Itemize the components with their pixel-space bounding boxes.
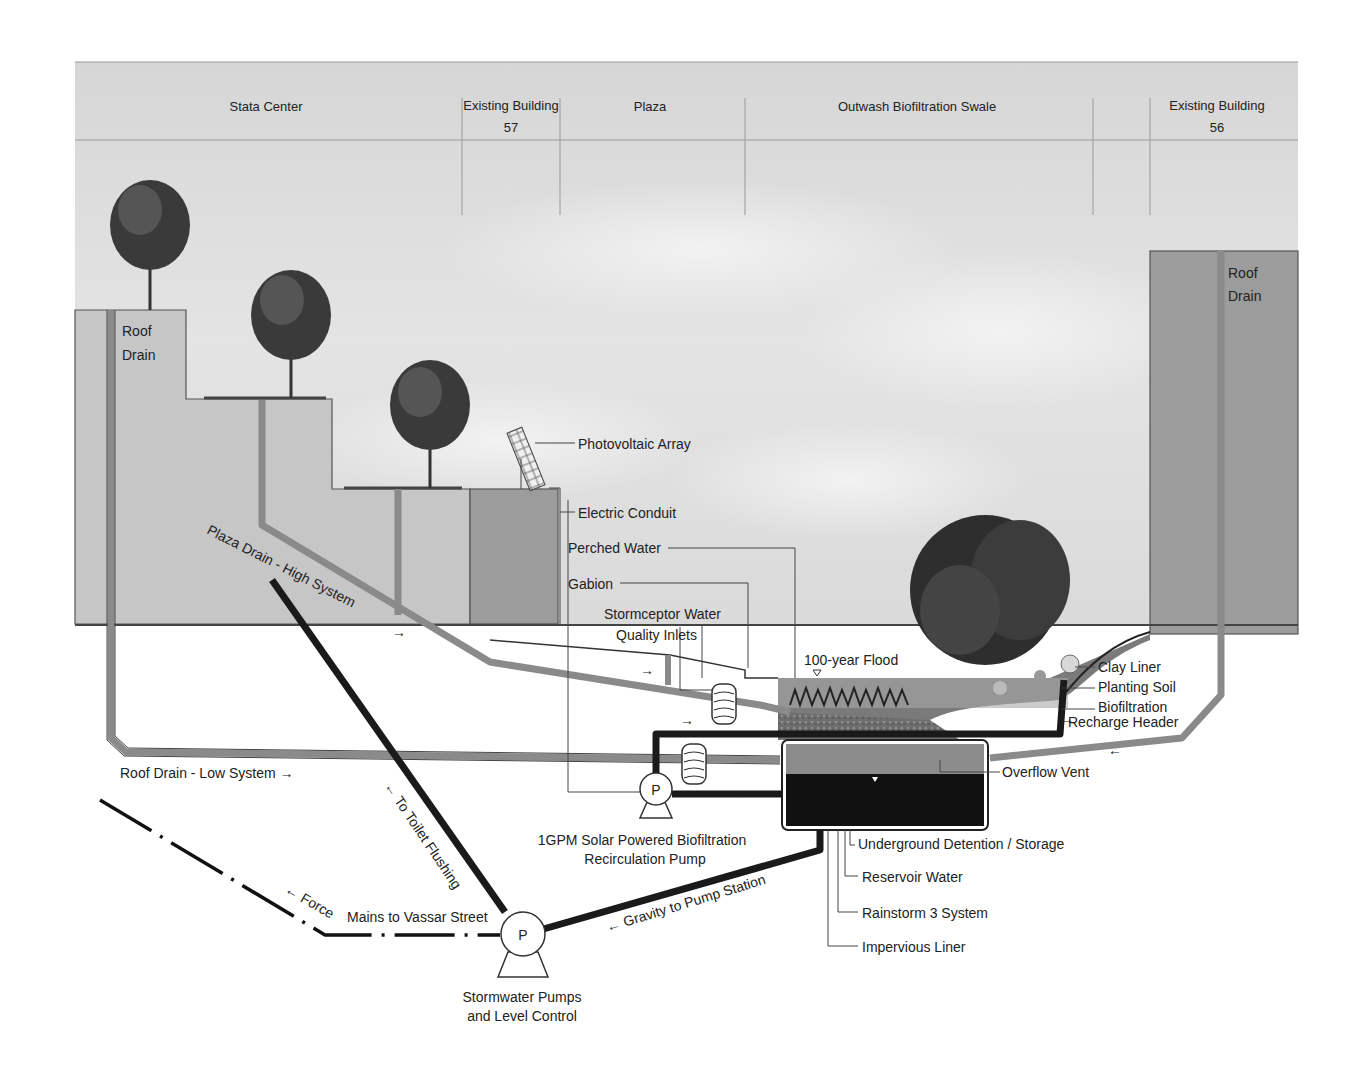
stormwater-pump-icon: P — [498, 912, 548, 977]
planting-soil-label: Planting Soil — [1098, 679, 1176, 695]
header-building-56-line1: Existing Building — [1169, 98, 1264, 113]
header-plaza: Plaza — [634, 99, 667, 114]
stormceptor-label-line1: Stormceptor Water — [604, 606, 721, 622]
underground-detention-tank — [782, 740, 988, 830]
roof-drain-low-label: Roof Drain - Low System → — [120, 765, 294, 781]
recirc-pump-label-line2: Recirculation Pump — [584, 851, 706, 867]
svg-text:→: → — [392, 624, 406, 640]
recirc-pump-label-line1: 1GPM Solar Powered Biofiltration — [538, 832, 747, 848]
roof-drain-left-label-line1: Roof — [122, 323, 152, 339]
header-stata-center: Stata Center — [230, 99, 304, 114]
perched-water-label: Perched Water — [568, 540, 661, 556]
stormceptor-inlet — [490, 640, 778, 685]
mains-to-vassar-label: Mains to Vassar Street — [347, 909, 488, 925]
underground-detention-label: Underground Detention / Storage — [858, 836, 1064, 852]
stormwater-pumps-label-line2: and Level Control — [467, 1008, 577, 1024]
svg-text:→: → — [680, 712, 694, 728]
flood-100-year-label: 100-year Flood — [804, 652, 898, 668]
flood-level-marker-icon — [813, 670, 821, 676]
header-outwash-swale: Outwash Biofiltration Swale — [838, 99, 996, 114]
stormwater-section-diagram: Stata Center Existing Building 57 Plaza … — [0, 0, 1365, 1083]
header-building-57-line2: 57 — [504, 120, 518, 135]
stormceptor-coil-icon — [682, 744, 706, 784]
recirculation-pump-icon: P — [640, 773, 672, 818]
stormceptor-label-line2: Quality Inlets — [616, 627, 697, 643]
gabion-label: Gabion — [568, 576, 613, 592]
stormceptor-coil-icon — [712, 684, 736, 724]
svg-text:P: P — [651, 782, 660, 798]
rainstorm-system-label: Rainstorm 3 System — [862, 905, 988, 921]
svg-text:P: P — [518, 927, 527, 943]
roof-drain-right-label-line2: Drain — [1228, 288, 1261, 304]
clay-liner-label: Clay Liner — [1098, 659, 1161, 675]
header-building-56-line2: 56 — [1210, 120, 1224, 135]
svg-text:→: → — [640, 662, 654, 678]
roof-drain-right-label-line1: Roof — [1228, 265, 1258, 281]
stormwater-pumps-label-line1: Stormwater Pumps — [462, 989, 581, 1005]
roof-drain-left-label-line2: Drain — [122, 347, 155, 363]
svg-text:←: ← — [737, 785, 751, 801]
recharge-header-label: Recharge Header — [1068, 714, 1179, 730]
impervious-liner-label: Impervious Liner — [862, 939, 966, 955]
electric-conduit-label: Electric Conduit — [578, 505, 676, 521]
photovoltaic-array-label: Photovoltaic Array — [578, 436, 691, 452]
overflow-vent-label: Overflow Vent — [1002, 764, 1089, 780]
header-building-57-line1: Existing Building — [463, 98, 558, 113]
biofiltration-label: Biofiltration — [1098, 699, 1167, 715]
svg-text:←: ← — [1108, 742, 1122, 758]
reservoir-water-label: Reservoir Water — [862, 869, 963, 885]
